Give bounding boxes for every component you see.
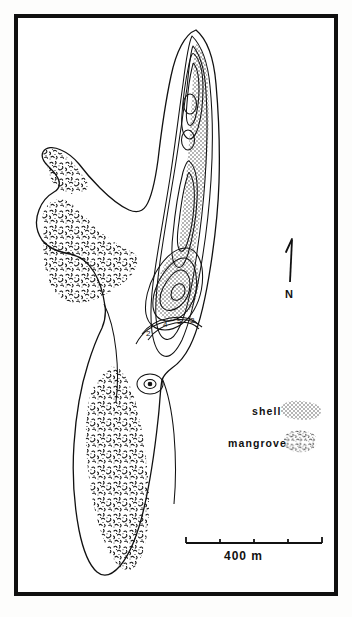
legend-label-mangrove: mangrove xyxy=(228,437,287,449)
mangrove-lobe-northwest xyxy=(43,149,87,194)
contour-label-3: 3 xyxy=(190,316,194,325)
contour-label-4: 4 xyxy=(163,320,167,329)
scale-bar-label: 400 m xyxy=(224,549,263,563)
shell-swatch xyxy=(277,398,323,422)
contour-label-5: 5 xyxy=(177,317,181,326)
mangrove-areas xyxy=(42,149,149,570)
north-arrow-label: N xyxy=(285,288,293,300)
legend-label-shell: shell xyxy=(252,405,281,417)
figure-root: shell mangrove N 400 m 2 4 5 3 xyxy=(0,0,352,617)
scale-bar xyxy=(186,537,322,543)
north-arrow xyxy=(286,239,292,282)
north-arrow-shaft xyxy=(290,240,292,282)
shell-deposits xyxy=(155,44,209,320)
map-drawing xyxy=(0,0,352,617)
contour-oval-lower-core xyxy=(148,382,152,386)
contour-channel-east xyxy=(162,378,176,504)
contour-label-2: 2 xyxy=(146,329,150,338)
mangrove-lobe-south xyxy=(86,366,149,570)
